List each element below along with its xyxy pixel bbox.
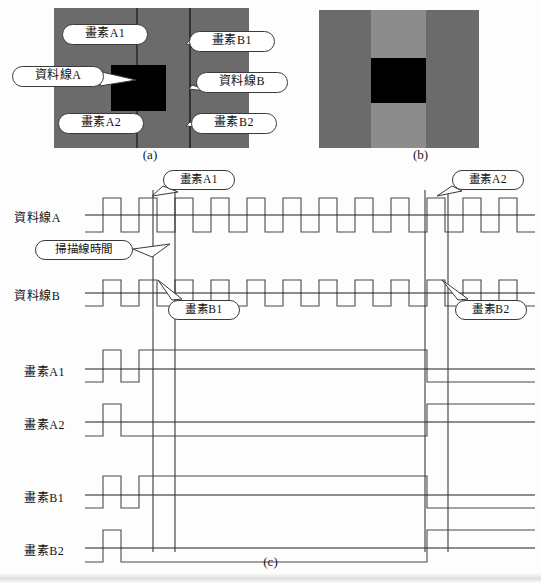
row-label-pixel-a1: 畫素A1 (24, 362, 65, 380)
row-label-data-line-b: 資料線B (14, 286, 60, 304)
callout-c-pixel-b1: 畫素B1 (168, 300, 240, 320)
row-label-data-line-a: 資料線A (14, 208, 61, 226)
figure-root: 畫素A1 資料線A 畫素A2 畫素B1 資料線B 畫素B2 (a) (b) 資料… (0, 0, 541, 583)
panel-c-caption: (c) (0, 554, 541, 570)
callout-pixel-b2: 畫素B2 (191, 113, 277, 134)
callout-data-line-a: 資料線A (12, 66, 104, 87)
callout-pixel-a2: 畫素A2 (58, 113, 144, 134)
callout-pixel-a1: 畫素A1 (62, 24, 148, 45)
callout-data-line-b: 資料線B (196, 72, 288, 93)
callout-c-pixel-b2: 畫素B2 (455, 300, 527, 320)
page-bottom-shadow (0, 573, 541, 583)
callout-c-pixel-a2: 畫素A2 (452, 170, 524, 190)
row-label-pixel-b1: 畫素B1 (24, 488, 64, 506)
row-label-pixel-a2: 畫素A2 (24, 415, 65, 433)
callout-c-scan-line-time: 掃描線時間 (35, 240, 133, 260)
callout-pixel-b1: 畫素B1 (189, 31, 275, 52)
callout-c-pixel-a1: 畫素A1 (163, 170, 235, 190)
